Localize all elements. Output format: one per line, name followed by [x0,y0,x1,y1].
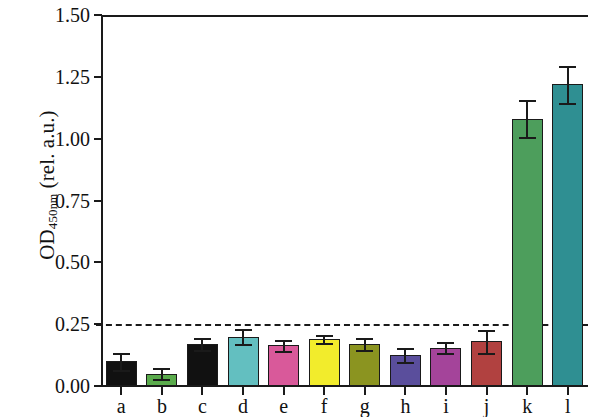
error-bar-lower-cap-l [559,103,576,105]
error-bar-cap-k [519,100,536,102]
bar-chart-figure: OD450nm (rel. a.u.) 0.000.250.500.751.00… [0,0,600,417]
x-axis-tick-mark [161,387,163,395]
x-axis-tick-label-d: d [223,396,263,417]
y-axis-tick-labels: 0.000.250.500.751.001.251.50 [28,0,90,417]
x-axis-tick-label-f: f [304,396,344,417]
error-bar-d [242,329,244,344]
x-axis-tick-label-j: j [467,396,507,417]
x-axis-tick-label-g: g [345,396,385,417]
bar-series [101,15,588,386]
error-bar-lower-cap-e [275,351,292,353]
error-bar-lower-cap-h [397,362,414,364]
error-bar-cap-b [153,368,170,370]
y-axis-tick-label: 1.25 [30,67,90,87]
x-axis-tick-label-k: k [507,396,547,417]
error-bar-cap-l [559,66,576,68]
error-bar-lower-cap-d [235,344,252,346]
error-bar-cap-a [113,353,130,355]
x-axis-tick-mark [323,387,325,395]
y-axis-tick-label: 0.00 [30,376,90,396]
error-bar-lower-cap-j [478,353,495,355]
error-bar-lower-cap-f [316,343,333,345]
error-bar-cap-e [275,340,292,342]
x-axis-tick-mark [567,387,569,395]
y-axis-tick-label: 0.75 [30,191,90,211]
y-axis-tick-label: 1.00 [30,129,90,149]
error-bar-cap-d [235,329,252,331]
error-bar-lower-cap-k [519,137,536,139]
error-bar-lower-cap-i [437,353,454,355]
error-bar-cap-h [397,348,414,350]
error-bar-cap-f [316,335,333,337]
y-axis-tick-label: 0.25 [30,314,90,334]
y-axis-tick-label: 0.50 [30,252,90,272]
x-axis-tick-label-h: h [385,396,425,417]
x-axis-tick-label-a: a [101,396,141,417]
x-axis-tick-mark [404,387,406,395]
error-bar-lower-cap-c [194,350,211,352]
x-axis-tick-mark [486,387,488,395]
x-axis-tick-mark [242,387,244,395]
error-bar-l [567,66,569,103]
error-bar-a [120,353,122,370]
error-bar-j [486,330,488,352]
x-axis-tick-label-i: i [426,396,466,417]
x-axis-tick-label-e: e [264,396,304,417]
x-axis-tick-mark [445,387,447,395]
bar-f [309,339,340,386]
error-bar-k [526,100,528,137]
x-axis-tick-mark [526,387,528,395]
x-axis-tick-label-c: c [182,396,222,417]
error-bar-lower-cap-a [113,370,130,372]
error-bar-lower-cap-b [153,379,170,381]
x-axis-tick-mark [120,387,122,395]
bar-l [552,84,583,386]
bar-k [512,119,543,386]
error-bar-cap-i [437,342,454,344]
x-axis-tick-labels: abcdefghijkl [101,396,588,417]
x-axis-tick-label-l: l [548,396,588,417]
error-bar-cap-g [356,338,373,340]
x-axis-tick-mark [201,387,203,395]
y-axis-tick-label: 1.50 [30,5,90,25]
x-axis-tick-mark [283,387,285,395]
error-bar-lower-cap-g [356,350,373,352]
x-axis-tick-label-b: b [142,396,182,417]
error-bar-h [404,348,406,362]
x-axis-tick-mark [364,387,366,395]
error-bar-cap-c [194,338,211,340]
error-bar-cap-j [478,330,495,332]
